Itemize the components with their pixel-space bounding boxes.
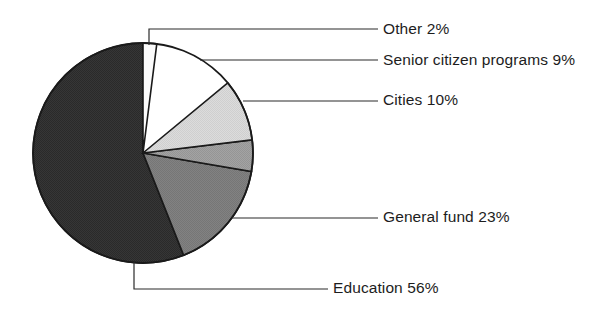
- pie-label-education: Education 56%: [333, 279, 439, 297]
- pie-chart-svg: [0, 0, 608, 311]
- pie-chart-figure: Other 2% Senior citizen programs 9% Citi…: [0, 0, 608, 311]
- pie-label-other: Other 2%: [383, 20, 449, 38]
- leader-line-other: [149, 29, 378, 45]
- leader-line-education: [134, 262, 328, 289]
- pie-label-general-fund: General fund 23%: [383, 208, 510, 226]
- pie-label-senior-citizen-programs: Senior citizen programs 9%: [383, 51, 575, 69]
- pie-slice-other[interactable]: [143, 43, 157, 153]
- pie-label-cities: Cities 10%: [383, 91, 458, 109]
